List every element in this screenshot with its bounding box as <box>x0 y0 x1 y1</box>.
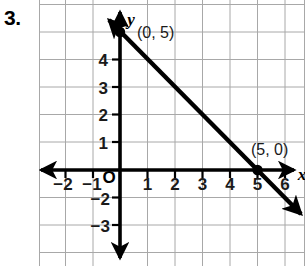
x-tick-label-2: 2 <box>170 175 179 194</box>
y-tick-label-3: 3 <box>99 79 108 98</box>
x-tick-label--2: −2 <box>53 175 72 194</box>
y-tick-label-4: 4 <box>99 51 109 70</box>
y-intercept-label: (0, 5) <box>137 24 174 41</box>
origin-label: O <box>102 168 115 187</box>
x-tick-label-3: 3 <box>198 175 207 194</box>
point-marker-x-intercept <box>252 165 262 175</box>
coordinate-graph: −2 −1 1 2 3 4 5 6 4 3 2 1 −2 −3 O x y (0… <box>39 0 305 266</box>
y-tick-label--2: −2 <box>91 190 110 209</box>
x-tick-label-1: 1 <box>143 175 152 194</box>
y-tick-label-2: 2 <box>99 106 108 125</box>
x-tick-label-5: 5 <box>253 175 262 194</box>
x-axis-label: x <box>297 165 305 184</box>
problem-number: 3. <box>4 6 21 30</box>
x-tick-label-6: 6 <box>280 175 289 194</box>
y-tick-label-1: 1 <box>99 134 108 153</box>
y-axis-label: y <box>125 10 135 29</box>
x-intercept-label: (5, 0) <box>251 141 288 158</box>
y-tick-label--3: −3 <box>91 217 110 236</box>
graph-canvas: −2 −1 1 2 3 4 5 6 4 3 2 1 −2 −3 O x y (0… <box>39 0 305 266</box>
x-tick-label-4: 4 <box>225 175 235 194</box>
point-marker-y-intercept <box>115 27 125 37</box>
